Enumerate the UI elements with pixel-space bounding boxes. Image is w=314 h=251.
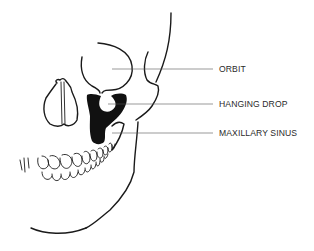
label-maxillary-sinus: MAXILLARY SINUS [219, 128, 297, 138]
cranium-outline [156, 13, 171, 82]
label-orbit: ORBIT [219, 64, 246, 74]
nasal-septum [61, 82, 65, 124]
skull-diagram [0, 0, 314, 251]
ramus-anterior [112, 122, 124, 150]
zygomatic-outline [136, 52, 159, 120]
teeth [20, 143, 115, 181]
orbit-outline [98, 43, 132, 93]
orbit-outline-left [81, 57, 100, 93]
jaw-outline [31, 228, 86, 233]
label-hanging-drop: HANGING DROP [219, 99, 288, 109]
